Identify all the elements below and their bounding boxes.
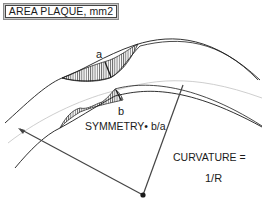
label-b: b — [118, 105, 124, 117]
vessel-centerline — [8, 81, 262, 143]
symmetry-label: SYMMETRY• b/a — [85, 120, 166, 132]
curvature-label: CURVATURE = — [173, 151, 246, 163]
radius-line-left — [20, 129, 143, 195]
radius-line-right — [143, 85, 183, 195]
label-a: a — [96, 48, 102, 60]
vessel-diagram — [0, 0, 271, 209]
center-point-icon — [140, 192, 145, 197]
curvature-value: 1/R — [205, 172, 222, 184]
